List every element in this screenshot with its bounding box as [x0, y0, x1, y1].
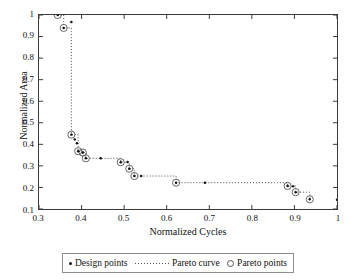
- legend-label-pareto-curve: Pareto curve: [172, 258, 220, 268]
- legend-entry-design-points: Design points: [69, 258, 128, 268]
- chart-figure: 0.10.20.30.40.50.60.70.80.91 0.30.40.50.…: [0, 0, 354, 280]
- legend-label-design-points: Design points: [75, 258, 128, 268]
- y-tick-label: 0.2: [4, 184, 34, 193]
- y-axis-title: Normalized Area: [18, 41, 29, 171]
- pareto-point-circle-icon: [227, 260, 234, 267]
- x-tick-label: 1: [323, 214, 353, 223]
- legend-entry-pareto-points: Pareto points: [227, 258, 287, 268]
- x-tick-label: 0.7: [194, 214, 224, 223]
- legend-entry-pareto-curve: Pareto curve: [135, 258, 220, 268]
- legend-label-pareto-points: Pareto points: [237, 258, 287, 268]
- x-tick-label: 0.5: [109, 214, 139, 223]
- x-tick-label: 0.8: [237, 214, 267, 223]
- chart-legend: Design points Pareto curve Pareto points: [62, 253, 294, 273]
- x-axis-title: Normalized Cycles: [38, 226, 338, 237]
- x-tick-label: 0.4: [66, 214, 96, 223]
- design-point-marker-icon: [69, 262, 72, 265]
- plot-area: [38, 14, 338, 210]
- pareto-curve-line-icon: [135, 263, 169, 264]
- y-tick-label: 0.9: [4, 31, 34, 40]
- x-tick-label: 0.3: [23, 214, 53, 223]
- x-tick-label: 0.9: [280, 214, 310, 223]
- plot-canvas: [39, 15, 337, 209]
- x-tick-label: 0.6: [152, 214, 182, 223]
- y-tick-label: 1: [4, 10, 34, 19]
